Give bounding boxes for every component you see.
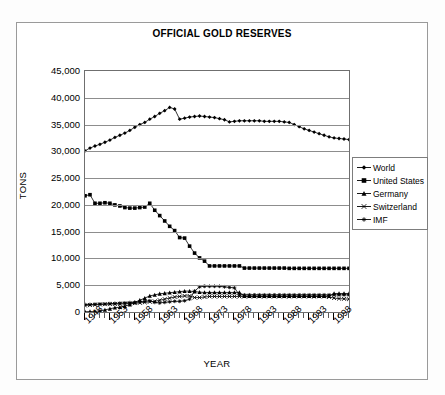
y-tick-label: 35,000: [28, 118, 80, 129]
gridline: [85, 125, 349, 126]
legend-label: IMF: [372, 215, 388, 225]
diamond-marker-icon: [356, 162, 372, 173]
legend-item-germany[interactable]: Germany: [356, 187, 425, 200]
gridline: [85, 258, 349, 259]
y-axis-tick-labels: 45,00040,00035,00030,00025,00020,00015,0…: [26, 70, 80, 313]
chart-figure: OFFICIAL GOLD RESERVES 45,00040,00035,00…: [0, 0, 445, 395]
y-tick-label: 5,000: [28, 279, 80, 290]
legend-item-world[interactable]: World: [356, 161, 425, 174]
y-tick-label: 10,000: [28, 252, 80, 263]
triangle-marker-icon: [356, 188, 372, 199]
y-tick-label: 15,000: [28, 225, 80, 236]
x-axis-tick-labels: 1948195319581963196819731978198319881993…: [84, 318, 350, 360]
plot-area: [84, 70, 350, 313]
gridline: [85, 285, 349, 286]
x-axis-title: YEAR: [84, 358, 350, 369]
gridline: [85, 205, 349, 206]
chart-legend: WorldUnited StatesGermanySwitzerlandIMF: [352, 157, 428, 230]
y-tick-label: 40,000: [28, 91, 80, 102]
data-series: [85, 284, 349, 306]
data-series: [85, 106, 349, 153]
series-canvas: [85, 71, 349, 312]
cross-marker-icon: [356, 201, 372, 212]
y-tick-label: 45,000: [28, 65, 80, 76]
legend-label: World: [372, 163, 395, 173]
legend-item-imf[interactable]: IMF: [356, 213, 425, 226]
legend-label: United States: [372, 176, 424, 186]
square-marker-icon: [356, 175, 372, 186]
legend-item-switzerland[interactable]: Switzerland: [356, 200, 425, 213]
y-tick-label: 20,000: [28, 198, 80, 209]
gridline: [85, 151, 349, 152]
legend-label: Germany: [372, 189, 408, 199]
legend-label: Switzerland: [372, 202, 417, 212]
gridline: [85, 98, 349, 99]
y-axis-title: TONS: [17, 156, 28, 216]
y-tick-label: 0: [28, 306, 80, 317]
gridline: [85, 232, 349, 233]
y-tick-label: 25,000: [28, 172, 80, 183]
y-tick-label: 30,000: [28, 145, 80, 156]
gridline: [85, 178, 349, 179]
legend-item-united-states[interactable]: United States: [356, 174, 425, 187]
chart-title: OFFICIAL GOLD RESERVES: [16, 28, 428, 39]
asterisk-marker-icon: [356, 214, 372, 225]
